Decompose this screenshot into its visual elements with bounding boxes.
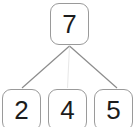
edge-root-to-child-1 — [68, 46, 70, 88]
tree-node-child-0-label: 2 — [14, 97, 28, 123]
edge-root-to-child-2 — [70, 46, 118, 88]
tree-node-root-label: 7 — [62, 11, 76, 37]
tree-node-child-1-label: 4 — [60, 97, 74, 123]
tree-node-child-0: 2 — [2, 89, 41, 127]
tree-node-child-1: 4 — [48, 89, 87, 127]
tree-node-root: 7 — [50, 3, 89, 45]
tree-node-child-2-label: 5 — [106, 97, 120, 123]
edge-root-to-child-0 — [22, 46, 70, 88]
tree-node-child-2: 5 — [94, 89, 133, 127]
tree-diagram-canvas: 7 2 4 5 — [0, 0, 138, 127]
